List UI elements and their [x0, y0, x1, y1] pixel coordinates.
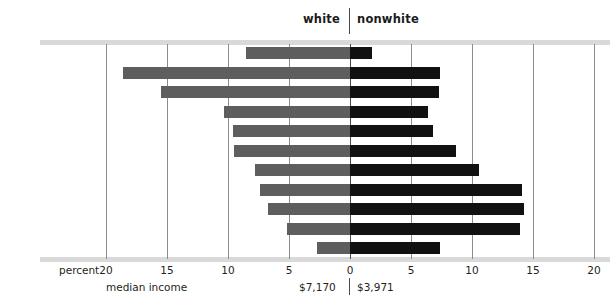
axis-tick-label: 20: [99, 264, 112, 276]
chart-row: 3,000-3,999: [106, 181, 594, 200]
bar-nonwhite: [350, 242, 440, 254]
bar-white: [123, 67, 350, 79]
chart-row: 7,000-7,999: [106, 103, 594, 122]
bar-white: [317, 242, 350, 254]
median-income-nonwhite-value: $3,971: [357, 281, 394, 293]
axis-tick-label: 5: [408, 264, 415, 276]
chart-row: 2,000-2,999: [106, 200, 594, 219]
plot-area: $15,000 and over10,000-14,9998,000-9,999…: [106, 44, 594, 259]
bar-white: [233, 125, 350, 137]
bar-white: [234, 145, 350, 157]
bar-nonwhite: [350, 145, 456, 157]
axis-tick-label: 10: [221, 264, 234, 276]
bar-nonwhite: [350, 203, 524, 215]
median-income-white-value: $7,170: [299, 281, 336, 293]
axis-tick-label: 20: [587, 264, 600, 276]
bar-nonwhite: [350, 223, 520, 235]
bar-white: [246, 47, 350, 59]
chart-row: 5,000-5,999: [106, 142, 594, 161]
axis-tick-label: 15: [526, 264, 539, 276]
chart-row: 8,000-9,999: [106, 83, 594, 102]
legend-label-nonwhite: nonwhite: [357, 12, 419, 26]
bar-white: [161, 86, 350, 98]
axis-tick-label: 10: [465, 264, 478, 276]
bar-nonwhite: [350, 47, 372, 59]
bar-nonwhite: [350, 67, 440, 79]
bar-nonwhite: [350, 184, 522, 196]
chart-row: 4,000-4,999: [106, 161, 594, 180]
chart-row: under 1,000: [106, 239, 594, 258]
axis-tick-label: 0: [347, 264, 354, 276]
legend-label-white: white: [303, 12, 340, 26]
chart-row: 1,000-1,999: [106, 220, 594, 239]
chart-row: 6,000-6,999: [106, 122, 594, 141]
bar-nonwhite: [350, 164, 479, 176]
bar-white: [287, 223, 350, 235]
income-distribution-chart: white nonwhite $15,000 and over10,000-14…: [0, 0, 610, 301]
bar-white: [224, 106, 350, 118]
axis-caption-median-income: median income: [106, 281, 187, 293]
bar-white: [268, 203, 350, 215]
bar-nonwhite: [350, 86, 439, 98]
axis-tick-label: 15: [160, 264, 173, 276]
median-income-divider: [349, 278, 350, 295]
bar-white: [255, 164, 350, 176]
bar-nonwhite: [350, 125, 433, 137]
gridline-right-20: [594, 44, 595, 259]
axis-caption-percent: percent: [59, 264, 99, 276]
bar-white: [260, 184, 350, 196]
header-divider: [349, 8, 350, 34]
bar-nonwhite: [350, 106, 428, 118]
axis-tick-label: 5: [286, 264, 293, 276]
chart-row: 10,000-14,999: [106, 64, 594, 83]
chart-row: $15,000 and over: [106, 44, 594, 63]
